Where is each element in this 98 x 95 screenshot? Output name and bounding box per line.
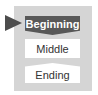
step-middle[interactable]: Middle [25,39,80,58]
step-label: Middle [36,43,68,55]
current-step-pointer-icon [5,15,22,31]
step-ending[interactable]: Ending [25,63,80,83]
step-label: Ending [35,69,69,81]
step-label: Beginning [26,18,80,30]
